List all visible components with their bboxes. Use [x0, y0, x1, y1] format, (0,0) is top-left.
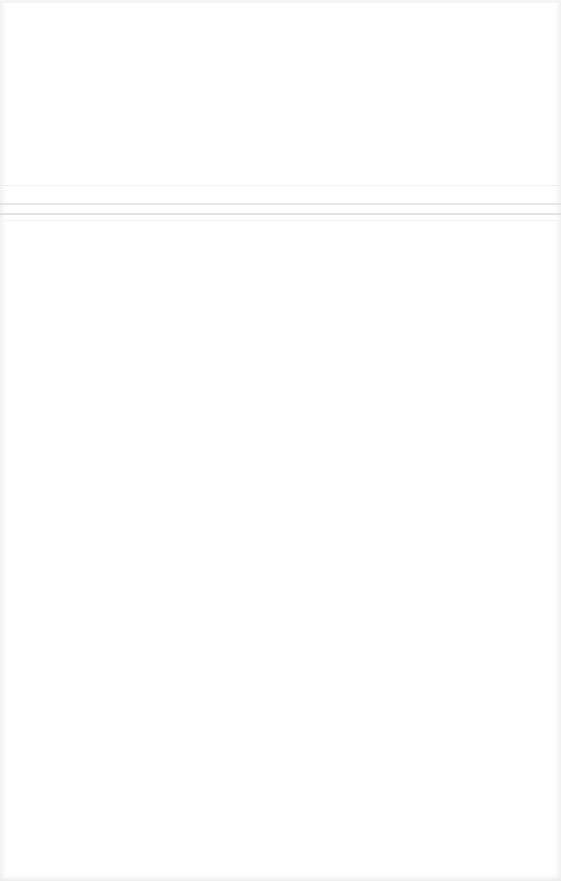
divider-line: [0, 203, 561, 205]
divider-line: [0, 220, 561, 221]
divider-line: [0, 185, 561, 186]
divider-line: [0, 213, 561, 215]
top-edge: [0, 0, 561, 3]
blank-page: [0, 0, 561, 881]
